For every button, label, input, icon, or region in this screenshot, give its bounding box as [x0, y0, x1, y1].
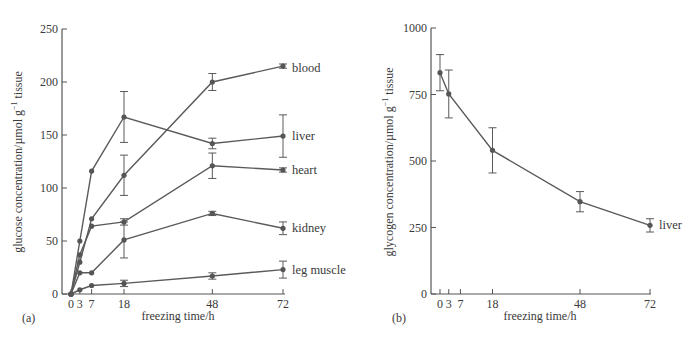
- x-tick-label: 18: [487, 297, 499, 311]
- data-point: [89, 283, 94, 288]
- y-tick-label: 750: [409, 88, 427, 102]
- panel-label: (a): [22, 311, 35, 325]
- data-point: [121, 237, 126, 242]
- data-point: [77, 252, 82, 257]
- data-point: [210, 211, 215, 216]
- panel-label: (b): [392, 311, 406, 325]
- y-tick-label: 250: [40, 22, 58, 36]
- data-point: [121, 114, 126, 119]
- figure: 050100150200250 037184872 bloodliverhear…: [0, 0, 699, 342]
- series-label: heart: [292, 163, 318, 177]
- y-axis-title-main: glucose concentration/µmol g: [11, 110, 25, 253]
- x-ticks: 037184872: [437, 289, 656, 311]
- x-tick-label: 0: [437, 297, 443, 311]
- data-point: [121, 173, 126, 178]
- series-heart: heart: [68, 153, 317, 297]
- data-point: [280, 267, 285, 272]
- series-liver: liver: [436, 55, 683, 233]
- y-axis-title-main: glycogen concentration/µmol g: [382, 106, 396, 256]
- data-point: [77, 270, 82, 275]
- data-point: [68, 291, 73, 296]
- data-point: [280, 133, 285, 138]
- data-point: [437, 70, 442, 75]
- y-tick-label: 100: [40, 181, 58, 195]
- y-axis-title-tail: tissue: [382, 67, 396, 97]
- data-point: [577, 199, 582, 204]
- y-tick-label: 200: [40, 75, 58, 89]
- series-line: [440, 73, 650, 226]
- y-axis-title-sup: −1: [10, 101, 19, 110]
- series-group: bloodliverheartkidneyleg muscle: [68, 61, 346, 297]
- data-point: [210, 141, 215, 146]
- panel-a-glucose-chart: 050100150200250 037184872 bloodliverhear…: [10, 22, 346, 325]
- series-line: [71, 213, 283, 294]
- series-label: liver: [292, 129, 316, 143]
- series-line: [71, 166, 283, 294]
- x-axis-title: freezing time/h: [142, 309, 215, 323]
- series-line: [71, 117, 283, 294]
- data-point: [280, 64, 285, 69]
- x-tick-label: 3: [446, 297, 452, 311]
- y-axis-title-sup: −1: [381, 98, 390, 107]
- x-tick-label: 0: [68, 297, 74, 311]
- x-tick-label: 7: [89, 297, 95, 311]
- series-label: kidney: [292, 221, 327, 235]
- data-point: [446, 91, 451, 96]
- y-axis-title-tail: tissue: [11, 71, 25, 101]
- data-point: [89, 216, 94, 221]
- series-label: blood: [292, 61, 321, 75]
- panel-b-glycogen-chart: 02505007501000 037184872 liver freezing …: [381, 21, 683, 325]
- series-group: liver: [436, 55, 683, 233]
- data-point: [77, 238, 82, 243]
- series-leg-muscle: leg muscle: [68, 261, 346, 296]
- series-label: liver: [659, 218, 683, 232]
- x-axis-title: freezing time/h: [504, 309, 577, 323]
- data-point: [77, 287, 82, 292]
- data-point: [121, 281, 126, 286]
- x-tick-label: 72: [277, 297, 289, 311]
- y-ticks: 050100150200250: [40, 22, 67, 301]
- y-tick-label: 0: [52, 287, 58, 301]
- data-point: [280, 167, 285, 172]
- y-tick-label: 150: [40, 128, 58, 142]
- data-point: [89, 224, 94, 229]
- x-tick-label: 72: [644, 297, 656, 311]
- x-ticks: 037184872: [68, 289, 289, 311]
- series-label: leg muscle: [292, 263, 346, 277]
- x-tick-label: 18: [118, 297, 130, 311]
- data-point: [647, 223, 652, 228]
- y-tick-label: 500: [409, 154, 427, 168]
- data-point: [210, 273, 215, 278]
- series-line: [71, 270, 283, 294]
- y-tick-label: 1000: [403, 21, 427, 35]
- y-tick-label: 250: [409, 221, 427, 235]
- data-point: [210, 79, 215, 84]
- y-tick-label: 50: [46, 234, 58, 248]
- y-tick-label: 0: [421, 287, 427, 301]
- x-tick-label: 7: [457, 297, 463, 311]
- series-line: [71, 66, 283, 294]
- series-liver: liver: [68, 92, 315, 297]
- data-point: [210, 163, 215, 168]
- data-point: [89, 168, 94, 173]
- y-axis-title: glucose concentration/µmol g−1 tissue: [10, 71, 25, 253]
- data-point: [490, 148, 495, 153]
- x-tick-label: 3: [77, 297, 83, 311]
- data-point: [280, 226, 285, 231]
- data-point: [89, 270, 94, 275]
- y-axis-title: glycogen concentration/µmol g−1 tissue: [381, 67, 396, 256]
